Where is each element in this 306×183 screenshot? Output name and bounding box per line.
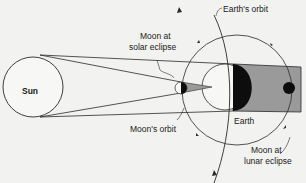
leader-moon-solar xyxy=(157,60,174,78)
earths-orbit-arrow-top xyxy=(177,7,182,13)
label-moon-lunar-1: Moon at xyxy=(251,145,282,155)
label-moon-lunar-2: lunar eclipse xyxy=(244,156,292,166)
label-earths-orbit: Earth's orbit xyxy=(223,4,269,14)
leader-moons-orbit xyxy=(177,108,184,120)
moons-orbit-arrow-bottom xyxy=(196,133,199,136)
eclipse-diagram: Sun Earth Earth's orbit Moon's orbit Moo… xyxy=(0,0,306,183)
moon-lunar xyxy=(283,82,295,94)
ray-top-outer xyxy=(40,55,233,64)
label-moons-orbit: Moon's orbit xyxy=(130,124,177,134)
earths-orbit-arrow-bottom xyxy=(212,170,217,176)
label-moon-solar-2: solar eclipse xyxy=(129,42,177,52)
label-sun: Sun xyxy=(22,86,38,96)
label-earth: Earth xyxy=(234,116,255,126)
leader-earths-orbit xyxy=(216,8,222,16)
moons-orbit-arrow-right xyxy=(270,43,273,46)
label-moon-solar-1: Moon at xyxy=(140,31,171,41)
moons-orbit-arrow-br xyxy=(283,125,286,129)
